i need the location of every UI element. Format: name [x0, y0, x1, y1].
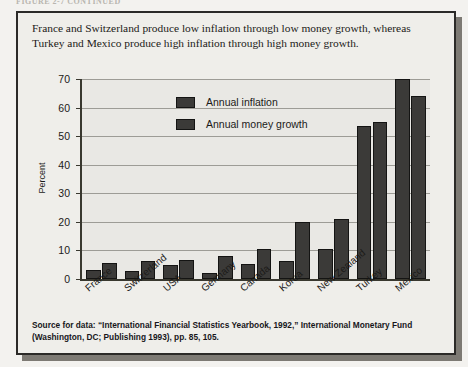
scanned-page: FIGURE 2-7 CONTINUED France and Switzerl… — [0, 0, 468, 367]
y-tick-mark — [76, 250, 80, 251]
figure-box: France and Switzerland produce low infla… — [16, 11, 456, 355]
bar — [395, 79, 410, 279]
y-tick-label: 20 — [46, 216, 70, 228]
chart-area: Percent Annual inflation Annual money gr… — [18, 71, 454, 303]
chart-legend: Annual inflation Annual money growth — [176, 91, 308, 135]
plot-region: Annual inflation Annual money growth — [80, 79, 430, 281]
y-tick-mark — [76, 279, 80, 280]
legend-label: Annual inflation — [206, 96, 278, 108]
y-tick-label: 60 — [46, 102, 70, 114]
bar — [373, 122, 388, 279]
legend-item-money-growth: Annual money growth — [176, 113, 308, 135]
bar — [411, 96, 426, 279]
y-tick-label: 40 — [46, 159, 70, 171]
figure-source-note: Source for data: “International Financia… — [32, 320, 442, 343]
running-head: FIGURE 2-7 CONTINUED — [16, 0, 121, 6]
y-tick-mark — [76, 193, 80, 194]
legend-swatch-icon — [176, 97, 195, 108]
legend-label: Annual money growth — [206, 118, 308, 130]
y-tick-label: 50 — [46, 130, 70, 142]
y-tick-label: 30 — [46, 187, 70, 199]
y-tick-label: 70 — [46, 73, 70, 85]
figure-caption: France and Switzerland produce low infla… — [32, 21, 436, 51]
legend-swatch-icon — [176, 119, 195, 130]
y-gridline — [82, 108, 430, 109]
legend-item-inflation: Annual inflation — [176, 91, 308, 113]
y-tick-mark — [76, 136, 80, 137]
y-tick-mark — [76, 79, 80, 80]
y-tick-mark — [76, 222, 80, 223]
y-tick-label: 10 — [46, 244, 70, 256]
y-gridline — [82, 79, 430, 80]
y-tick-mark — [76, 108, 80, 109]
y-tick-mark — [76, 165, 80, 166]
y-tick-label: 0 — [46, 273, 70, 285]
